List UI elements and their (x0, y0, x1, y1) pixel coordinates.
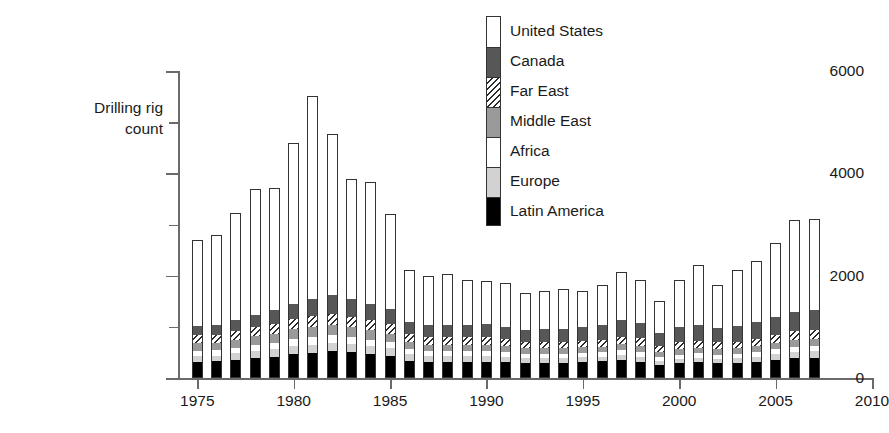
bar-segment (385, 309, 396, 324)
bar-segment (616, 272, 627, 320)
bar-1998 (635, 280, 646, 378)
x-tick-label: 1980 (276, 393, 310, 409)
bar-segment (307, 299, 318, 316)
bar-segment (732, 326, 743, 341)
bar-2004 (751, 261, 762, 378)
bar-segment (327, 343, 338, 352)
bar-segment (365, 340, 376, 347)
bar-2002 (712, 285, 723, 378)
bar-segment (230, 340, 241, 348)
bar-segment (250, 351, 261, 358)
bar-segment (404, 361, 415, 378)
bar-segment (230, 320, 241, 331)
bar-segment (269, 334, 280, 343)
x-tick-label: 1990 (469, 393, 503, 409)
bar-segment (693, 265, 704, 324)
bar-segment (539, 363, 550, 378)
bar-segment (442, 274, 453, 325)
bar-segment (539, 342, 550, 349)
bar-segment (809, 219, 820, 310)
bar-segment (674, 342, 685, 349)
y-axis-title: Drilling rig count (18, 98, 163, 140)
bar-segment (307, 353, 318, 378)
bar-segment (269, 357, 280, 378)
bar-segment (635, 280, 646, 322)
x-tick (679, 378, 681, 389)
bar-1988 (442, 274, 453, 378)
bar-segment (751, 261, 762, 322)
bar-segment (423, 325, 434, 337)
y-tick-minor (169, 327, 178, 329)
bar-segment (789, 312, 800, 332)
bar-segment (192, 326, 203, 335)
bar-segment (500, 339, 511, 346)
x-tick-label: 1985 (373, 393, 407, 409)
legend-label-africa: Africa (510, 136, 604, 166)
bar-segment (770, 343, 781, 350)
bar-1979 (269, 188, 280, 378)
legend-label-europe: Europe (510, 166, 604, 196)
bar-segment (520, 363, 531, 378)
bar-segment (307, 327, 318, 337)
bar-segment (635, 362, 646, 378)
bar-segment (558, 363, 569, 378)
bar-segment (809, 310, 820, 330)
bar-segment (192, 335, 203, 343)
bar-segment (693, 362, 704, 378)
bar-segment (327, 325, 338, 335)
bar-segment (327, 295, 338, 313)
bar-2007 (809, 219, 820, 378)
bar-segment (597, 325, 608, 339)
bar-segment (346, 179, 357, 300)
bar-segment (558, 329, 569, 342)
bar-segment (423, 337, 434, 345)
bar-segment (346, 327, 357, 337)
bar-segment (269, 188, 280, 310)
bar-segment (288, 319, 299, 329)
bar-segment (423, 362, 434, 378)
bar-1986 (404, 270, 415, 378)
bar-1976 (211, 235, 222, 378)
bar-1996 (597, 285, 608, 378)
bar-1997 (616, 272, 627, 378)
bar-1991 (500, 283, 511, 378)
bar-segment (365, 346, 376, 354)
bar-segment (230, 360, 241, 378)
bar-segment (732, 363, 743, 378)
bar-segment (635, 338, 646, 346)
bar-segment (307, 345, 318, 353)
bar-segment (211, 325, 222, 335)
bar-segment (751, 339, 762, 346)
bar-segment (654, 301, 665, 333)
bar-1994 (558, 289, 569, 378)
bar-segment (307, 316, 318, 327)
bar-segment (558, 289, 569, 329)
bar-segment (770, 335, 781, 343)
bar-segment (288, 329, 299, 339)
x-tick (486, 378, 488, 389)
bar-segment (616, 320, 627, 336)
bar-segment (346, 317, 357, 328)
bar-segment (250, 327, 261, 336)
bar-segment (250, 336, 261, 345)
bar-segment (809, 330, 820, 339)
legend-swatch-united-states (487, 17, 500, 47)
bar-2001 (693, 265, 704, 378)
bar-segment (654, 333, 665, 346)
x-tick (872, 378, 874, 389)
bar-segment (192, 362, 203, 378)
bar-segment (558, 342, 569, 349)
bar-segment (250, 315, 261, 327)
bar-segment (674, 363, 685, 378)
bar-segment (577, 291, 588, 328)
bar-segment (423, 276, 434, 326)
bar-segment (404, 334, 415, 342)
bar-1982 (327, 134, 338, 379)
x-tick (390, 378, 392, 389)
bar-segment (288, 354, 299, 378)
bar-segment (211, 361, 222, 378)
bar-segment (211, 335, 222, 343)
bar-segment (712, 363, 723, 378)
bar-segment (481, 337, 492, 345)
bar-segment (712, 328, 723, 342)
